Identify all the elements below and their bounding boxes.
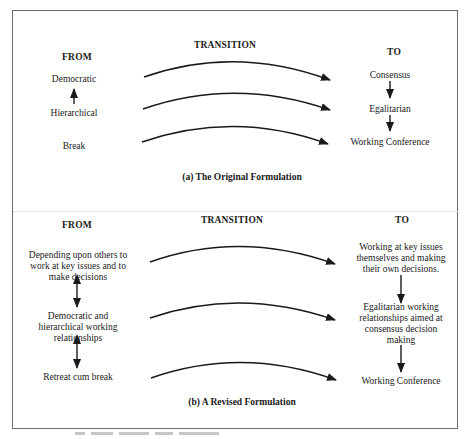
to-item: Egalitarian working relationships aimed … [356, 302, 446, 346]
transition-arrow-icon [142, 126, 328, 144]
transition-arrows-a [142, 62, 330, 144]
transition-arrow-icon [143, 93, 330, 110]
to-item: Consensus [370, 70, 411, 81]
header-from: FROM [62, 52, 92, 63]
header-to: TO [395, 215, 409, 226]
from-item: Depending upon others to work at key iss… [22, 250, 134, 283]
transition-arrow-icon [144, 62, 330, 80]
from-item: Break [63, 141, 86, 152]
header-to: TO [387, 47, 401, 58]
header-transition: TRANSITION [201, 215, 263, 226]
caption-b: (b) A Revised Formulation [188, 397, 295, 408]
transition-arrows-b [150, 246, 336, 380]
from-item: Retreat cum break [43, 372, 113, 383]
to-item: Egalitarian [369, 104, 411, 115]
from-item: Democratic and hierarchical working rela… [33, 311, 123, 344]
cropped-figure-caption [75, 432, 375, 439]
transition-arrow-icon [151, 362, 336, 380]
from-item: Hierarchical [51, 108, 98, 119]
to-item: Working Conference [350, 137, 429, 148]
to-item: Working Conference [361, 376, 440, 387]
header-transition: TRANSITION [194, 40, 256, 51]
to-item: Working at key issues themselves and mak… [353, 242, 449, 275]
from-item: Democratic [52, 74, 96, 85]
transition-arrow-icon [150, 303, 335, 320]
header-from: FROM [62, 220, 92, 231]
transition-arrow-icon [150, 246, 335, 264]
caption-a: (a) The Original Formulation [182, 172, 301, 183]
